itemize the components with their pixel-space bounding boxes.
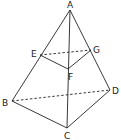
label-D: D — [112, 86, 119, 96]
label-C: C — [64, 131, 70, 140]
edge-CD — [67, 90, 110, 128]
edge-BD-dashed — [12, 90, 110, 101]
edge-FG — [68, 50, 91, 69]
label-B: B — [2, 98, 8, 108]
tetrahedron-diagram: A B C D E F G — [0, 0, 121, 140]
label-G: G — [93, 45, 100, 55]
label-A: A — [67, 0, 74, 10]
edge-EG-dashed — [40, 50, 91, 55]
edge-BC — [12, 101, 67, 128]
label-E: E — [31, 49, 37, 59]
label-F: F — [68, 72, 73, 82]
edge-EF — [40, 55, 68, 69]
